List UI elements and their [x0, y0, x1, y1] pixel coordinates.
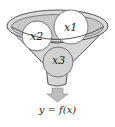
- label-x1: x1: [64, 21, 77, 34]
- funnel-diagram: x1 x2 x3 y = f(x): [0, 0, 115, 127]
- down-arrow-icon: [47, 88, 68, 102]
- label-x2: x2: [30, 30, 43, 43]
- label-x3: x3: [52, 54, 65, 67]
- output-label: y = f(x): [38, 104, 77, 115]
